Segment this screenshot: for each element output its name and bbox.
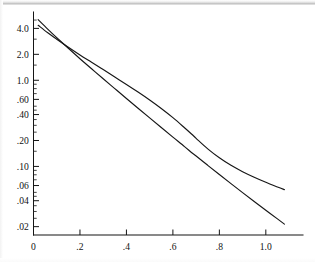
y-axis-tick-labels: 4.02.01.0.60.40.20.10.06.04.02: [17, 23, 29, 232]
tick-marks: [34, 20, 266, 235]
x-tick-label-3: .6: [169, 241, 176, 252]
y-tick-label-8: .04: [17, 195, 29, 206]
x-axis-tick-labels: 0.2.4.6.81.0: [31, 241, 272, 252]
x-tick-label-5: 1.0: [260, 241, 272, 252]
y-tick-label-5: .20: [17, 135, 29, 146]
y-tick-label-4: .40: [17, 109, 29, 120]
y-tick-label-9: .02: [17, 221, 29, 232]
x-tick-label-0: 0: [31, 241, 36, 252]
x-tick-label-2: .4: [123, 241, 130, 252]
y-tick-label-2: 1.0: [17, 75, 29, 86]
y-tick-label-7: .06: [17, 180, 29, 191]
x-tick-label-1: .2: [76, 241, 83, 252]
series-straight-line: [38, 20, 284, 224]
y-tick-label-1: 2.0: [17, 49, 29, 60]
y-tick-label-3: .60: [17, 94, 29, 105]
data-series: [38, 20, 284, 224]
y-tick-label-6: .10: [17, 161, 29, 172]
axes: [34, 12, 304, 235]
figure-canvas: 4.02.01.0.60.40.20.10.06.04.02 0.2.4.6.8…: [0, 0, 315, 262]
semilog-plot: 4.02.01.0.60.40.20.10.06.04.02 0.2.4.6.8…: [0, 0, 315, 262]
y-tick-label-0: 4.0: [17, 23, 29, 34]
series-curved-line: [38, 25, 284, 189]
x-tick-label-4: .8: [216, 241, 223, 252]
